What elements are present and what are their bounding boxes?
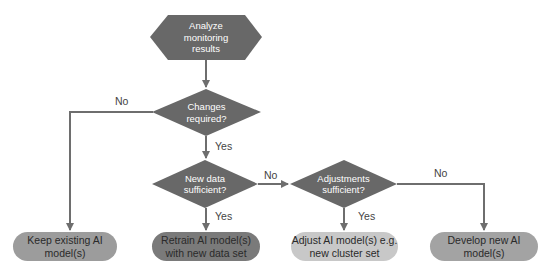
edge-label-newdata-yes: Yes — [215, 210, 232, 222]
edge-label-newdata-no: No — [264, 169, 277, 181]
develop-node-label: Develop new AI model(s) — [430, 232, 538, 261]
edge-label-changes-no: No — [115, 95, 128, 107]
newdata-line-2: sufficient? — [184, 184, 227, 196]
adjustq-line-1: Adjustments — [317, 173, 369, 185]
start-line-2: monitoring — [184, 32, 228, 44]
develop-line-2: model(s) — [464, 247, 505, 259]
adjustq-line-2: sufficient? — [317, 184, 369, 196]
changes-line-2: required? — [186, 113, 226, 125]
adjust-line-1: Adjust AI model(s) — [292, 234, 377, 246]
start-line-3: results — [184, 43, 228, 55]
newdata-node-label: New data sufficient? — [152, 160, 258, 208]
newdata-line-1: New data — [184, 173, 227, 185]
keep-line-2: model(s) — [45, 247, 86, 259]
keep-line-1: Keep existing AI — [27, 234, 102, 246]
edge-adjustq-no-to-develop — [397, 184, 484, 230]
keep-node-label: Keep existing AI model(s) — [13, 232, 117, 261]
start-node-label: Analyze monitoring results — [150, 15, 262, 60]
start-line-1: Analyze — [184, 20, 228, 32]
adjust-node-label: Adjust AI model(s) e.g. new cluster set — [291, 232, 398, 261]
edge-label-adjust-no: No — [434, 167, 447, 179]
edge-changes-no-to-keep — [70, 112, 153, 230]
edge-label-adjust-yes: Yes — [358, 210, 375, 222]
develop-line-1: Develop new AI — [448, 234, 521, 246]
changes-node-label: Changes required? — [152, 89, 261, 136]
retrain-line-2: with new data set — [165, 247, 246, 259]
edge-label-changes-yes: Yes — [215, 140, 232, 152]
retrain-line-1: Retrain AI model(s) — [161, 234, 251, 246]
adjustq-node-label: Adjustments sufficient? — [290, 160, 397, 208]
changes-line-1: Changes — [186, 101, 226, 113]
retrain-node-label: Retrain AI model(s) with new data set — [152, 232, 260, 261]
